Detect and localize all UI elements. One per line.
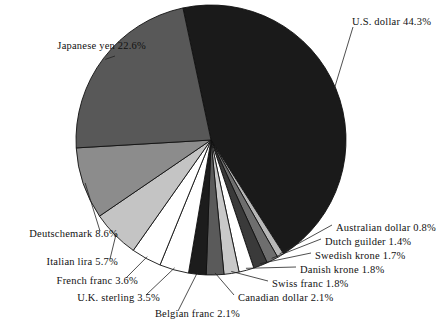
- slice-label-italian-lira: Italian lira 5.7%: [10, 256, 118, 268]
- leader-line: [334, 27, 353, 90]
- slice-label-uk-sterling: U.K. sterling 3.5%: [40, 292, 160, 304]
- leader-line: [215, 273, 234, 295]
- pie-chart-figure: U.S. dollar 44.3% Japanese yen 22.6% Deu…: [0, 0, 444, 327]
- slice-label-us-dollar: U.S. dollar 44.3%: [352, 16, 431, 28]
- slice-label-french-franc: French franc 3.6%: [24, 275, 138, 287]
- leader-line: [178, 272, 198, 311]
- slice-label-belgian-franc: Belgian franc 2.1%: [60, 308, 240, 320]
- leader-line: [231, 271, 268, 281]
- slice-label-danish-krone: Danish krone 1.8%: [300, 264, 384, 276]
- slice-label-australian-dollar: Australian dollar 0.8%: [336, 222, 436, 234]
- slice-label-swedish-krone: Swedish krone 1.7%: [315, 250, 405, 262]
- slice-label-japanese-yen: Japanese yen 22.6%: [14, 40, 146, 52]
- leader-line: [146, 268, 175, 295]
- slice-label-canadian-dollar: Canadian dollar 2.1%: [238, 292, 333, 304]
- slice-label-swiss-franc: Swiss franc 1.8%: [272, 278, 349, 290]
- slice-label-dutch-guilder: Dutch guilder 1.4%: [325, 236, 411, 248]
- slice-label-deutschemark: Deutschemark 8.6%: [0, 228, 118, 240]
